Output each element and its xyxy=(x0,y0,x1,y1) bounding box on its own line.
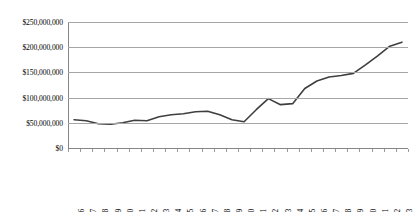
x-axis-tick xyxy=(189,149,190,152)
x-axis-tick xyxy=(287,149,288,152)
x-axis-tick-label: 2005-06 xyxy=(320,209,329,212)
y-axis-tick-label: $250,000,000 xyxy=(22,18,63,27)
x-axis-tick-label: 1989-90 xyxy=(126,209,135,212)
x-axis-tick xyxy=(80,149,81,152)
x-axis-tick xyxy=(250,149,251,152)
x-axis-tick-label: 1986-87 xyxy=(89,209,98,212)
x-axis-tick-label: 1988-89 xyxy=(114,209,123,212)
y-axis-labels: $250,000,000$200,000,000$150,000,000$100… xyxy=(0,0,63,212)
gridline xyxy=(68,123,408,124)
x-axis-tick xyxy=(214,149,215,152)
x-axis-tick xyxy=(359,149,360,152)
x-axis-tick-label: 2000-01 xyxy=(259,209,268,212)
x-axis-tick-label: 2008-09 xyxy=(356,209,365,212)
x-axis-tick-label: 2012-13 xyxy=(405,209,414,212)
x-axis-tick-label: 1997-98 xyxy=(223,209,232,212)
x-axis-tick-label: 2006-07 xyxy=(332,209,341,212)
y-axis-tick-label: $0 xyxy=(56,144,63,153)
x-axis-tick xyxy=(153,149,154,152)
x-axis-tick-label: 2001-02 xyxy=(271,209,280,212)
gridline xyxy=(68,47,408,48)
x-axis-tick xyxy=(141,149,142,152)
x-axis-tick-label: 1993-94 xyxy=(174,209,183,212)
x-axis-tick xyxy=(165,149,166,152)
x-axis-tick-label: 1991-92 xyxy=(150,209,159,212)
x-axis-tick xyxy=(226,149,227,152)
x-axis-tick-label: 2007-08 xyxy=(344,209,353,212)
gridline xyxy=(68,22,408,23)
x-axis-tick xyxy=(129,149,130,152)
x-axis-tick xyxy=(262,149,263,152)
y-axis-tick-label: $100,000,000 xyxy=(22,93,63,102)
gridline xyxy=(68,98,408,99)
x-axis-tick-label: 2002-03 xyxy=(284,209,293,212)
x-axis-labels: 1985-861986-871987-881988-891989-901990-… xyxy=(68,152,408,212)
x-axis-tick-label: 1995-96 xyxy=(199,209,208,212)
x-axis-tick xyxy=(384,149,385,152)
x-axis-tick-label: 1987-88 xyxy=(101,209,110,212)
x-axis-tick xyxy=(372,149,373,152)
x-axis-tick xyxy=(323,149,324,152)
x-axis-tick-label: 1990-91 xyxy=(138,209,147,212)
x-axis-tick xyxy=(202,149,203,152)
x-axis-tick-label: 1994-95 xyxy=(186,209,195,212)
y-axis-tick-label: $200,000,000 xyxy=(22,43,63,52)
x-axis-tick-label: 1992-93 xyxy=(162,209,171,212)
series-line xyxy=(68,22,408,148)
x-axis-tick xyxy=(274,149,275,152)
x-axis-tick-label: 1999-2000 xyxy=(247,209,256,212)
x-axis-tick xyxy=(347,149,348,152)
x-axis-tick xyxy=(92,149,93,152)
y-axis-tick-label: $150,000,000 xyxy=(22,68,63,77)
x-axis-tick-label: 2010-11 xyxy=(381,209,390,212)
x-axis-tick xyxy=(177,149,178,152)
x-axis-tick-label: 1996-97 xyxy=(211,209,220,212)
x-axis-tick xyxy=(396,149,397,152)
x-axis-tick xyxy=(238,149,239,152)
x-axis-tick-label: 2004-05 xyxy=(308,209,317,212)
plot-area xyxy=(68,22,408,148)
x-axis-tick xyxy=(299,149,300,152)
gridline xyxy=(68,72,408,73)
x-axis-tick-label: 1985-86 xyxy=(77,209,86,212)
x-axis-tick-label: 1998-99 xyxy=(235,209,244,212)
x-axis-tick-label: 2003-04 xyxy=(296,209,305,212)
line-chart: $250,000,000$200,000,000$150,000,000$100… xyxy=(0,0,416,212)
x-axis-tick xyxy=(68,149,69,152)
x-axis-tick xyxy=(311,149,312,152)
x-axis-tick-label: 2011-12 xyxy=(393,209,402,212)
x-axis-tick xyxy=(117,149,118,152)
y-axis-tick-label: $50,000,000 xyxy=(26,118,63,127)
x-axis-tick xyxy=(104,149,105,152)
x-axis-tick xyxy=(408,149,409,152)
x-axis-tick xyxy=(335,149,336,152)
x-axis-tick-label: 2009-10 xyxy=(369,209,378,212)
